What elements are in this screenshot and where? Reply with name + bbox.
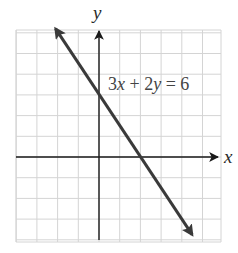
eq-var-y: y (151, 74, 161, 94)
y-axis-label: y (91, 2, 102, 23)
grid (16, 30, 221, 242)
eq-equals-6: = 6 (161, 74, 189, 94)
x-axis-label: x (223, 146, 233, 167)
eq-plus-2: + 2 (125, 74, 153, 94)
equation-label: 3x + 2y = 6 (108, 74, 189, 94)
equation-line (56, 29, 193, 235)
coordinate-graph: x y 3x + 2y = 6 (0, 0, 238, 253)
eq-var-x: x (116, 74, 125, 94)
eq-coef-3: 3 (108, 74, 117, 94)
